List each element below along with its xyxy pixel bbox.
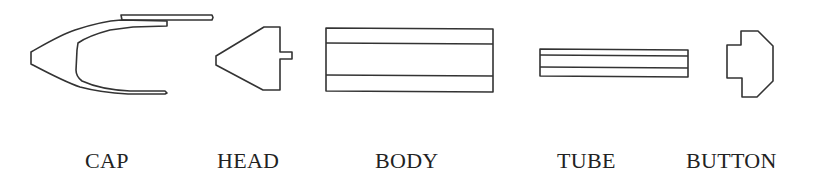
cap-label: CAP — [85, 148, 129, 174]
head-part — [216, 27, 292, 90]
tube-part — [540, 49, 688, 77]
button-part — [727, 31, 773, 97]
body-part — [326, 28, 493, 92]
cap-part — [31, 15, 213, 94]
head-label: HEAD — [217, 148, 279, 174]
button-label: BUTTON — [686, 148, 777, 174]
tube-label: TUBE — [557, 148, 616, 174]
body-label: BODY — [375, 148, 439, 174]
